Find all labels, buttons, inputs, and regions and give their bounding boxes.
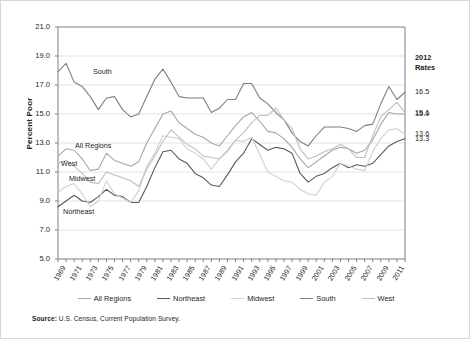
legend-swatch-icon: [362, 298, 375, 299]
inline-label-northeast: Northeast: [63, 207, 94, 216]
y-tick-label: 13.0: [20, 138, 50, 147]
line-chart-svg: [1, 1, 470, 286]
y-tick-label: 7.0: [20, 225, 50, 234]
legend-swatch-icon: [300, 298, 313, 299]
rates-heading-year: 2012: [415, 53, 435, 63]
rates-panel-heading: 2012 Rates: [415, 53, 435, 72]
source-note: Source: U.S. Census, Current Population …: [32, 315, 180, 322]
legend-swatch-icon: [78, 298, 91, 299]
inline-label-south: South: [93, 67, 112, 76]
plot-area: 5.07.09.011.013.015.017.019.021.0 196919…: [1, 1, 470, 286]
source-label: Source:: [32, 315, 57, 322]
legend-label: Northeast: [173, 294, 205, 303]
source-text: U.S. Census, Current Population Survey.: [59, 315, 180, 322]
rate-value-south: 16.5: [415, 87, 429, 96]
legend-item-south[interactable]: South: [300, 294, 335, 303]
inline-label-midwest: Midwest: [69, 174, 95, 183]
legend-item-midwest[interactable]: Midwest: [231, 294, 274, 303]
y-tick-label: 17.0: [20, 80, 50, 89]
y-tick-label: 19.0: [20, 51, 50, 60]
legend-swatch-icon: [231, 298, 244, 299]
legend-swatch-icon: [157, 298, 170, 299]
y-tick-label: 11.0: [20, 167, 50, 176]
legend-item-northeast[interactable]: Northeast: [157, 294, 205, 303]
y-tick-label: 9.0: [20, 196, 50, 205]
y-tick-label: 5.0: [20, 254, 50, 263]
legend-label: Midwest: [247, 294, 274, 303]
inline-label-west: West: [61, 159, 77, 168]
rate-value-northeast: 13.3: [415, 134, 429, 143]
y-tick-label: 15.0: [20, 109, 50, 118]
legend-item-west[interactable]: West: [362, 294, 395, 303]
inline-label-all-regions: All Regions: [75, 141, 111, 150]
chart-figure: Percent Poor 5.07.09.011.013.015.017.019…: [0, 0, 470, 339]
legend-label: West: [378, 294, 395, 303]
y-tick-label: 21.0: [20, 22, 50, 31]
legend-label: All Regions: [94, 294, 131, 303]
rates-heading-word: Rates: [415, 63, 435, 73]
legend: All RegionsNortheastMidwestSouthWest: [1, 289, 470, 307]
legend-label: South: [316, 294, 335, 303]
gridlines-group: [58, 27, 405, 230]
rate-value-all-regions: 15.0: [415, 109, 429, 118]
legend-item-all-regions[interactable]: All Regions: [78, 294, 131, 303]
